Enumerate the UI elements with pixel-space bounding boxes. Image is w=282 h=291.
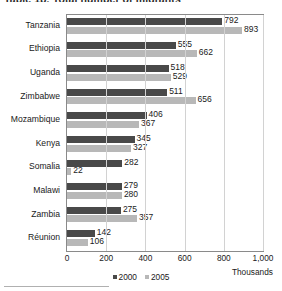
- x-tick-0: 0: [65, 253, 70, 263]
- x-tick-600: 600: [178, 253, 192, 263]
- value-label-somalia-2005: 22: [73, 166, 82, 174]
- value-label-malawi-2005: 280: [124, 190, 138, 198]
- category-label-kenya: Kenya: [36, 139, 60, 148]
- bar-group: 406367: [67, 109, 263, 133]
- footnote-rule: [4, 286, 109, 287]
- legend-swatch-2005: [145, 275, 149, 279]
- category-label-tanzania: Tanzania: [26, 21, 60, 30]
- bar-zimbabwe-2005: [67, 97, 196, 104]
- bar-malawi-2005: [67, 192, 122, 199]
- value-label-kenya-2000: 345: [137, 134, 151, 142]
- x-tick-1000: 1,000: [253, 253, 274, 263]
- category-label-uganda: Uganda: [30, 68, 60, 77]
- gridline: [224, 15, 225, 251]
- bar-zambia-2005: [67, 215, 137, 222]
- bar-group: 511656: [67, 86, 263, 110]
- bar-ethiopia-2000: [67, 42, 176, 49]
- chart-title: Table 1b. Total number of migrants: [4, 0, 181, 2]
- category-label-zambia: Zambia: [31, 210, 60, 219]
- bar-group: 275357: [67, 204, 263, 228]
- category-axis-labels: TanzaniaEthiopiaUgandaZimbabweMozambique…: [0, 14, 63, 252]
- value-label-somalia-2000: 282: [124, 158, 138, 166]
- bar-rows: 7928935556625185295116564063673453272822…: [67, 15, 263, 251]
- bar-group: 28222: [67, 157, 263, 181]
- bar-mozambique-2005: [67, 121, 139, 128]
- value-label-zambia-2000: 275: [123, 205, 137, 213]
- plot-area: 7928935556625185295116564063673453272822…: [66, 14, 264, 252]
- legend-item-2005[interactable]: 2005: [145, 272, 169, 282]
- value-label-mozambique-2005: 367: [141, 119, 155, 127]
- x-tick-800: 800: [217, 253, 231, 263]
- bar-group: 279280: [67, 180, 263, 204]
- value-label-tanzania-2005: 893: [244, 25, 258, 33]
- x-tick-200: 200: [99, 253, 113, 263]
- legend-label-2005: 2005: [151, 272, 169, 282]
- gridline: [145, 15, 146, 251]
- value-label-malawi-2000: 279: [124, 181, 138, 189]
- bar-group: 792893: [67, 15, 263, 39]
- bar-kenya-2005: [67, 145, 131, 152]
- value-label-réunion-2005: 106: [90, 237, 104, 245]
- value-label-uganda-2000: 518: [171, 63, 185, 71]
- category-label-malawi: Malawi: [33, 186, 60, 195]
- gridline: [263, 15, 264, 251]
- category-label-ethiopia: Ethiopia: [29, 44, 60, 53]
- value-label-tanzania-2000: 792: [224, 16, 238, 24]
- bar-group: 142106: [67, 227, 263, 251]
- bar-zambia-2000: [67, 207, 121, 214]
- value-label-zimbabwe-2005: 656: [198, 95, 212, 103]
- bar-group: 345327: [67, 133, 263, 157]
- category-label-zimbabwe: Zimbabwe: [20, 92, 60, 101]
- value-label-ethiopia-2005: 662: [199, 48, 213, 56]
- category-label-mozambique: Mozambique: [11, 115, 60, 124]
- bar-uganda-2005: [67, 74, 171, 81]
- gridline: [106, 15, 107, 251]
- bar-ethiopia-2005: [67, 50, 197, 57]
- bar-group: 555662: [67, 39, 263, 63]
- bar-réunion-2005: [67, 239, 88, 246]
- category-label-somalia: Somalia: [29, 162, 60, 171]
- category-label-réunion: Réunion: [28, 233, 60, 242]
- x-tick-400: 400: [138, 253, 152, 263]
- legend-item-2000[interactable]: 2000: [113, 272, 137, 282]
- bar-tanzania-2005: [67, 27, 242, 34]
- bar-malawi-2000: [67, 183, 122, 190]
- axis-unit-label: Thousands: [232, 267, 273, 277]
- bar-group: 518529: [67, 62, 263, 86]
- value-label-zimbabwe-2000: 511: [169, 87, 183, 95]
- bar-zimbabwe-2000: [67, 89, 167, 96]
- gridline: [185, 15, 186, 251]
- bar-uganda-2000: [67, 65, 169, 72]
- bar-kenya-2000: [67, 136, 135, 143]
- legend-swatch-2000: [113, 275, 117, 279]
- bar-somalia-2005: [67, 168, 71, 175]
- x-axis: 02004006008001,000: [66, 253, 264, 265]
- legend-label-2000: 2000: [119, 272, 137, 282]
